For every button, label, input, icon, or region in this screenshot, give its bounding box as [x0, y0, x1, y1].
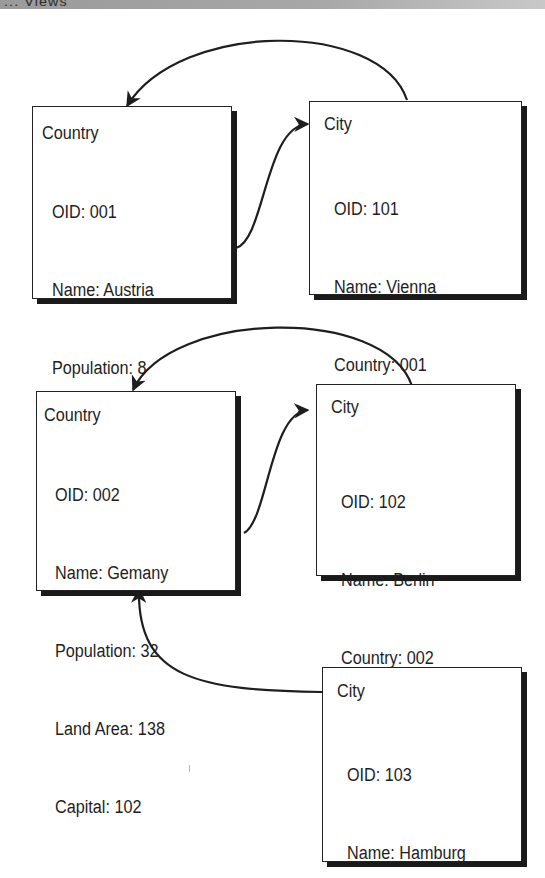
field-name: Name: Gemany [55, 560, 168, 586]
arrow-vienna-to-austria [127, 41, 407, 106]
field-oid: OID: 102 [341, 489, 467, 515]
field-name: Name: Vienna [334, 274, 456, 300]
city-vienna-box: City OID: 101 Name: Vienna Country: 001 … [309, 101, 522, 295]
field-population: Population: 8 [52, 355, 154, 381]
header-text: ... Views [4, 0, 68, 9]
field-name: Name: Austria [52, 277, 154, 303]
box-title: Country [44, 405, 101, 426]
field-name: Name: Berlin [341, 567, 467, 593]
field-oid: OID: 103 [347, 762, 473, 788]
box-title: City [324, 114, 352, 135]
box-fields: OID: 002 Name: Gemany Population: 32 Lan… [55, 430, 168, 872]
country-germany-box: Country OID: 002 Name: Gemany Population… [36, 391, 236, 591]
field-land-area: Land Area: 138 [55, 716, 168, 742]
box-title: Country [42, 123, 99, 144]
box-title: City [337, 681, 365, 702]
field-oid: OID: 001 [52, 199, 154, 225]
stray-mark [189, 765, 190, 772]
field-country: Country: 001 [334, 352, 456, 378]
box-fields: OID: 103 Name: Hamburg Country: 002 Popu… [347, 710, 473, 878]
field-population: Population: 32 [55, 638, 168, 664]
field-oid: OID: 101 [334, 196, 456, 222]
field-capital: Capital: 102 [55, 794, 168, 820]
field-name: Name: Hamburg [347, 840, 473, 866]
box-title: City [331, 397, 359, 418]
city-hamburg-box: City OID: 103 Name: Hamburg Country: 002… [322, 667, 522, 862]
header-strip: ... Views [0, 0, 545, 9]
arrow-austria-to-vienna [236, 124, 308, 248]
arrow-germany-to-berlin [244, 410, 308, 533]
city-berlin-box: City OID: 102 Name: Berlin Country: 002 … [316, 384, 516, 576]
field-oid: OID: 002 [55, 482, 168, 508]
country-austria-box: Country OID: 001 Name: Austria Populatio… [32, 106, 232, 299]
